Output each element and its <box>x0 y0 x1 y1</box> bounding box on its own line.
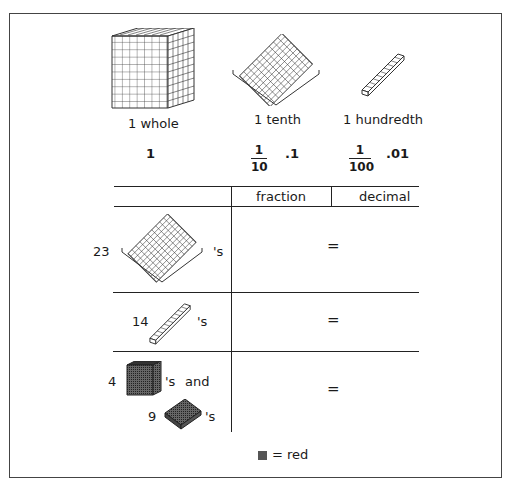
row2-suffix: 's <box>197 314 207 329</box>
whole-value: 1 <box>146 146 155 161</box>
unit-label-tenth: 1 tenth <box>254 112 301 127</box>
header-column-divider <box>331 187 332 207</box>
row3-count-a: 4 <box>108 374 116 389</box>
row3-count-b: 9 <box>148 409 156 424</box>
row1-suffix: 's <box>213 244 223 259</box>
header-decimal: decimal <box>359 189 410 204</box>
header-fraction: fraction <box>256 189 306 204</box>
flat-block-icon <box>118 214 206 286</box>
row3-equals: = <box>327 380 340 398</box>
tenth-fraction: 1 10 <box>251 143 267 174</box>
table-row-rule <box>113 351 419 352</box>
row3-and: and <box>185 374 209 389</box>
thousand-cube-icon <box>108 28 198 110</box>
row3-suffix-b: 's <box>205 409 215 424</box>
rod-block-icon <box>360 50 408 98</box>
unit-label-hundredth: 1 hundredth <box>343 112 423 127</box>
hundredth-denominator: 100 <box>349 160 374 174</box>
hundredth-decimal: .01 <box>386 146 409 161</box>
fraction-bar <box>349 158 371 159</box>
table-column-divider <box>231 187 232 432</box>
row3-suffix-a: 's <box>165 374 175 389</box>
tenth-denominator: 10 <box>251 160 268 174</box>
fraction-bar <box>251 158 267 159</box>
unit-label-whole: 1 whole <box>128 116 179 131</box>
tenth-decimal: .1 <box>285 146 299 161</box>
thousand-cube-red-icon <box>125 361 163 397</box>
flat-block-icon <box>230 34 322 106</box>
flat-block-red-icon <box>163 399 203 431</box>
legend: = red <box>258 447 308 462</box>
row2-count: 14 <box>132 314 149 329</box>
table-top-rule <box>114 186 419 187</box>
table-header-rule <box>114 206 419 207</box>
red-swatch-icon <box>258 451 267 460</box>
hundredth-numerator: 1 <box>356 143 364 157</box>
rod-block-icon <box>148 300 194 346</box>
tenth-numerator: 1 <box>255 143 263 157</box>
table-row-rule <box>113 292 419 293</box>
row2-equals: = <box>327 311 340 329</box>
row1-count: 23 <box>93 244 110 259</box>
row1-equals: = <box>327 237 340 255</box>
hundredth-fraction: 1 100 <box>349 143 371 174</box>
legend-text: = red <box>272 447 308 462</box>
